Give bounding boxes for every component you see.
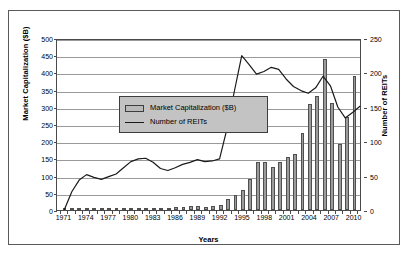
y-axis-right-tick-mark <box>364 108 367 109</box>
y-axis-left-ticks: 050100150200250300350400450500 <box>29 39 53 211</box>
y-axis-right-tick-mark <box>364 211 367 212</box>
y-axis-left-tick-label: 250 <box>41 122 53 129</box>
y-axis-right-tick-label: 0 <box>370 208 374 215</box>
y-axis-left-tick-label: 350 <box>41 87 53 94</box>
x-axis-tick-label: 1998 <box>256 214 272 221</box>
x-axis-tick-label: 1971 <box>56 214 72 221</box>
x-axis-tick-label: 1986 <box>167 214 183 221</box>
y-axis-right-tick-mark <box>364 73 367 74</box>
x-axis-tick-label: 1980 <box>123 214 139 221</box>
y-axis-right-title: Number of REITs <box>380 46 389 166</box>
x-axis-tick-label: 2007 <box>323 214 339 221</box>
y-axis-left-tick-label: 450 <box>41 53 53 60</box>
bar-swatch-icon <box>125 105 144 112</box>
y-axis-left-tick-label: 200 <box>41 139 53 146</box>
plot-area: Market Capitalization ($B) Number of REI… <box>56 39 361 211</box>
x-axis-tick-label: 1983 <box>145 214 161 221</box>
y-axis-right-tick-mark <box>364 142 367 143</box>
legend-label-number-of-reits: Number of REITs <box>150 118 207 126</box>
y-axis-right-tick-label: 50 <box>370 173 378 180</box>
x-axis-title: Years <box>56 235 361 244</box>
y-axis-left-tick-label: 300 <box>41 104 53 111</box>
legend-label-market-cap: Market Capitalization ($B) <box>150 104 236 112</box>
chart-screenshot: 050100150200250300350400450500 Market Ca… <box>0 0 410 257</box>
legend-item-market-cap: Market Capitalization ($B) <box>125 101 262 115</box>
y-axis-left-tick-label: 400 <box>41 70 53 77</box>
x-axis-tick-label: 1974 <box>78 214 94 221</box>
y-axis-right-tick-mark <box>364 177 367 178</box>
y-axis-left-tick-label: 0 <box>49 208 53 215</box>
line-swatch-icon <box>125 122 144 123</box>
x-axis-tick-label: 1995 <box>234 214 250 221</box>
x-axis-tick-label: 2010 <box>346 214 362 221</box>
x-axis-tick-label: 1989 <box>190 214 206 221</box>
x-axis-tick-label: 1977 <box>100 214 116 221</box>
chart-legend: Market Capitalization ($B) Number of REI… <box>119 96 268 133</box>
y-axis-left-title: Market Capitalization ($B) <box>21 14 30 134</box>
x-axis-tick-label: 2004 <box>301 214 317 221</box>
y-axis-right-tick-mark <box>364 39 367 40</box>
y-axis-left-tick-label: 150 <box>41 156 53 163</box>
y-axis-right-tick-label: 250 <box>370 36 382 43</box>
y-axis-left-tick-label: 50 <box>45 190 53 197</box>
y-axis-left-tick-label: 500 <box>41 36 53 43</box>
y-axis-left-tick-label: 100 <box>41 173 53 180</box>
legend-item-number-of-reits: Number of REITs <box>125 115 262 129</box>
x-axis-tick-labels: 1971197419771980198319861989199219951998… <box>56 214 361 226</box>
x-axis-tick-label: 1992 <box>212 214 228 221</box>
x-axis-tick-label: 2001 <box>279 214 295 221</box>
chart-outer-frame: 050100150200250300350400450500 Market Ca… <box>8 10 400 245</box>
